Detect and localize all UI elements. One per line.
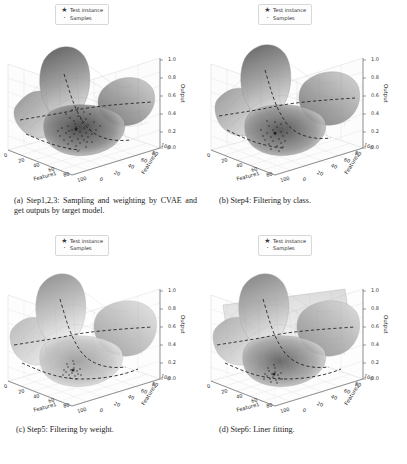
subplot-c: ★ ★ Test instance — [0, 231, 203, 435]
ztick-3: 0.4 — [168, 341, 176, 347]
legend-label-test-instance: Test instance — [273, 238, 306, 246]
subplot-row-bottom: ★ ★ Test instance — [0, 231, 407, 435]
svg-text:★: ★ — [74, 126, 79, 132]
ztick-4: 0.2 — [168, 359, 176, 365]
figure-container: ★ ★ Tes — [0, 0, 407, 464]
ztick-4: 0.2 — [371, 128, 379, 134]
legend-row-test-instance: ★ Test instance — [262, 7, 306, 15]
subplot-b: ★ ★ Test instance — [203, 0, 406, 217]
subplot-row-top: ★ ★ Tes — [0, 0, 407, 217]
ztick-0: 1.0 — [168, 287, 176, 293]
legend-label-samples: Samples — [70, 245, 92, 253]
ztick-3: 0.4 — [168, 110, 176, 116]
zaxis-label: Output — [383, 315, 389, 334]
ztick-1: 0.8 — [168, 305, 176, 311]
subplot-a: ★ ★ Tes — [0, 0, 203, 217]
caption-c: (c) Step5: Filtering by weight. — [0, 425, 203, 435]
legend-row-samples: · Samples — [262, 15, 306, 23]
z-axis-d — [363, 289, 366, 379]
ztick-4: 0.2 — [371, 359, 379, 365]
legend-label-samples: Samples — [273, 15, 295, 23]
caption-d: (d) Step6: Liner fitting. — [203, 425, 406, 435]
ztick-1: 0.8 — [168, 74, 176, 80]
ztick-2: 0.6 — [168, 92, 176, 98]
dot-icon: · — [59, 245, 70, 253]
zaxis-label: Output — [383, 84, 389, 103]
ztick-2: 0.6 — [371, 323, 379, 329]
legend-c: ★ Test instance · Samples — [55, 235, 109, 256]
legend-d: ★ Test instance · Samples — [258, 235, 312, 256]
zaxis-label: Output — [180, 315, 186, 334]
test-instance-marker-b: ★ — [273, 130, 278, 136]
legend-row-samples: · Samples — [59, 15, 103, 23]
plot-c: ★ ★ Test instance — [0, 231, 203, 423]
test-instance-marker-c: ★ — [71, 367, 76, 373]
plot-d: ★ ★ Test instance — [203, 231, 406, 423]
caption-a: (a) Step1,2,3: Sampling and weighting by… — [0, 196, 203, 217]
ztick-2: 0.6 — [168, 323, 176, 329]
caption-b: (b) Step4: Filtering by class. — [203, 196, 406, 206]
ztick-1: 0.8 — [371, 74, 379, 80]
z-axis-c — [160, 289, 163, 379]
z-axis-b — [363, 58, 366, 148]
ztick-2: 0.6 — [371, 92, 379, 98]
legend-row-test-instance: ★ Test instance — [59, 7, 103, 15]
ztick-0: 1.0 — [371, 287, 379, 293]
svg-text:★: ★ — [71, 367, 76, 373]
legend-row-samples: · Samples — [262, 245, 306, 253]
dot-icon: · — [59, 15, 70, 23]
test-instance-marker-a: ★ — [74, 126, 79, 132]
ztick-0: 1.0 — [371, 56, 379, 62]
legend-label-test-instance: Test instance — [273, 7, 306, 15]
ztick-3: 0.4 — [371, 110, 379, 116]
svg-text:★: ★ — [272, 371, 277, 377]
legend-label-samples: Samples — [273, 245, 295, 253]
plot-b: ★ ★ Test instance — [203, 0, 406, 192]
dot-icon: · — [262, 245, 273, 253]
ztick-3: 0.4 — [371, 341, 379, 347]
plot-a: ★ ★ Tes — [0, 0, 203, 192]
legend-row-test-instance: ★ Test instance — [262, 238, 306, 246]
legend-row-test-instance: ★ Test instance — [59, 238, 103, 246]
legend-label-test-instance: Test instance — [70, 238, 103, 246]
legend-label-samples: Samples — [70, 15, 92, 23]
legend-label-test-instance: Test instance — [70, 7, 103, 15]
ztick-0: 1.0 — [168, 56, 176, 62]
ztick-1: 0.8 — [371, 305, 379, 311]
legend-a: ★ Test instance · Samples — [55, 4, 109, 25]
legend-b: ★ Test instance · Samples — [258, 4, 312, 25]
legend-row-samples: · Samples — [59, 245, 103, 253]
dot-icon: · — [262, 15, 273, 23]
zaxis-label: Output — [180, 84, 186, 103]
svg-text:★: ★ — [273, 130, 278, 136]
subplot-d: ★ ★ Test instance — [203, 231, 406, 435]
z-axis-a — [160, 58, 163, 148]
ztick-4: 0.2 — [168, 128, 176, 134]
test-instance-marker-d: ★ — [272, 371, 277, 377]
